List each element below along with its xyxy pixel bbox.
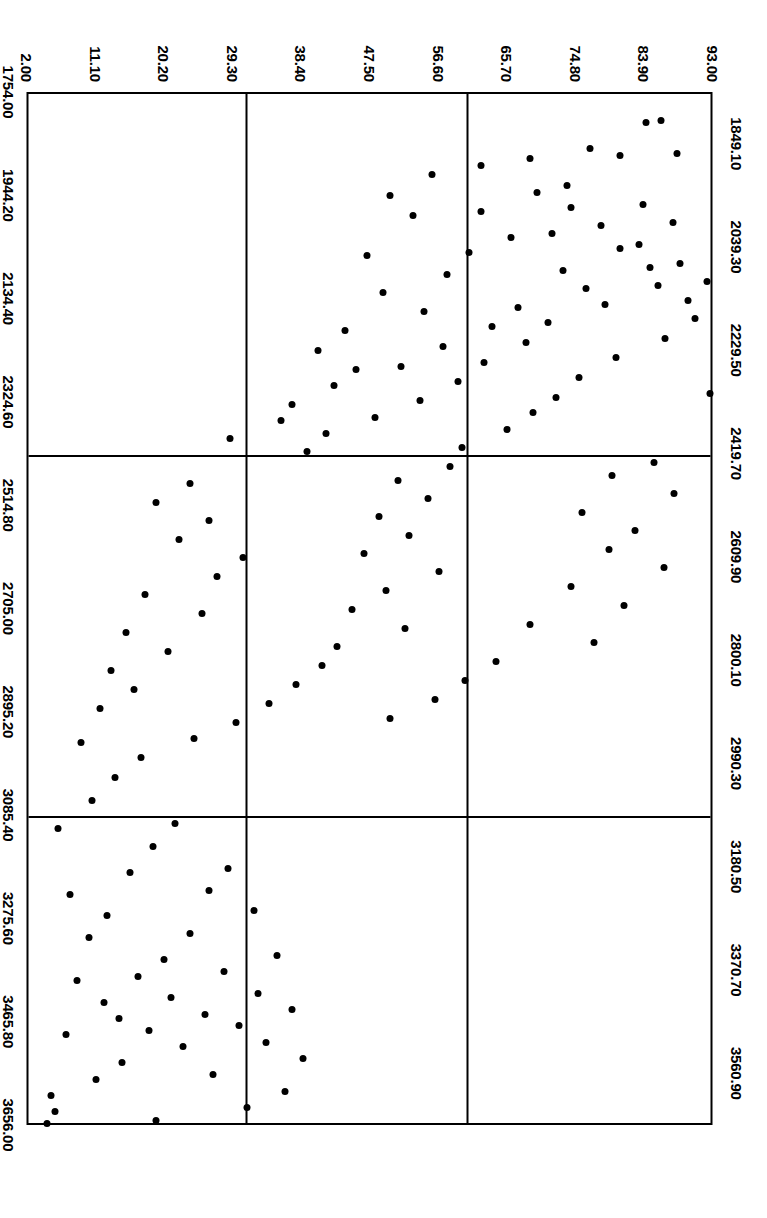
data-point	[179, 1043, 186, 1050]
data-point	[250, 907, 257, 914]
data-point	[341, 327, 348, 334]
data-point	[100, 999, 107, 1006]
data-point	[273, 952, 280, 959]
data-point	[676, 260, 683, 267]
data-point	[661, 335, 668, 342]
x-tick-upper-0: 1849.10	[727, 117, 744, 170]
data-point	[639, 201, 646, 208]
data-point	[605, 546, 612, 553]
data-point	[205, 887, 212, 894]
data-point	[277, 417, 284, 424]
data-point	[454, 378, 461, 385]
data-point	[405, 532, 412, 539]
data-point	[232, 719, 239, 726]
data-point	[658, 117, 665, 124]
data-point	[77, 739, 84, 746]
panel-divider-vertical-0	[28, 455, 710, 457]
y-tick-7: 29.30	[223, 45, 240, 82]
data-point	[205, 517, 212, 524]
y-tick-5: 47.50	[361, 45, 378, 82]
x-tick-lower-8: 3275.60	[0, 892, 16, 945]
x-tick-lower-2: 2134.40	[0, 272, 16, 325]
x-tick-upper-1: 2039.30	[727, 221, 744, 274]
data-point	[262, 1039, 269, 1046]
data-point	[507, 234, 514, 241]
data-point	[299, 1055, 306, 1062]
data-point	[526, 621, 533, 628]
y-tick-2: 74.80	[566, 45, 583, 82]
y-tick-9: 11.10	[86, 46, 103, 82]
x-tick-upper-4: 2609.90	[727, 530, 744, 583]
data-point	[190, 735, 197, 742]
data-point	[443, 271, 450, 278]
data-point	[149, 843, 156, 850]
data-point	[446, 463, 453, 470]
data-point	[92, 1076, 99, 1083]
data-point	[43, 1120, 50, 1127]
data-point	[119, 1059, 126, 1066]
data-point	[47, 1092, 54, 1099]
data-point	[435, 568, 442, 575]
data-point	[642, 119, 649, 126]
data-point	[145, 1027, 152, 1034]
data-point	[73, 977, 80, 984]
data-point	[477, 208, 484, 215]
data-point	[137, 754, 144, 761]
x-tick-lower-6: 2895.20	[0, 685, 16, 738]
data-point	[420, 308, 427, 315]
data-point	[235, 1022, 242, 1029]
data-point	[66, 891, 73, 898]
data-point	[54, 825, 61, 832]
x-tick-lower-4: 2514.80	[0, 479, 16, 532]
scatter-plot-figure: 1849.102039.302229.502419.702609.902800.…	[0, 0, 767, 1218]
data-point	[616, 245, 623, 252]
x-tick-lower-1: 1944.20	[0, 169, 16, 222]
data-point	[401, 625, 408, 632]
data-point	[609, 472, 616, 479]
data-point	[397, 363, 404, 370]
data-point	[352, 366, 359, 373]
data-point	[616, 152, 623, 159]
data-point	[186, 480, 193, 487]
data-point	[431, 696, 438, 703]
data-point	[488, 323, 495, 330]
data-point	[707, 390, 714, 397]
data-point	[439, 343, 446, 350]
data-point	[224, 865, 231, 872]
data-point	[567, 583, 574, 590]
panel-divider-horizontal-1	[245, 94, 247, 1123]
data-point	[126, 869, 133, 876]
data-point	[315, 347, 322, 354]
data-point	[103, 912, 110, 919]
data-point	[168, 994, 175, 1001]
data-point	[288, 401, 295, 408]
data-point	[503, 426, 510, 433]
y-tick-4: 56.60	[429, 45, 446, 82]
x-tick-lower-0: 1754.00	[0, 66, 16, 119]
y-tick-8: 20.20	[155, 45, 172, 82]
data-point	[152, 499, 159, 506]
data-point	[292, 681, 299, 688]
y-tick-6: 38.40	[292, 45, 309, 82]
data-point	[134, 973, 141, 980]
y-tick-10: 2.00	[18, 54, 35, 82]
data-point	[416, 397, 423, 404]
data-point	[526, 155, 533, 162]
data-point	[635, 241, 642, 248]
x-tick-upper-9: 3560.90	[727, 1047, 744, 1100]
data-point	[122, 629, 129, 636]
data-point	[409, 212, 416, 219]
data-point	[303, 448, 310, 455]
data-point	[590, 639, 597, 646]
data-point	[371, 414, 378, 421]
data-point	[288, 1006, 295, 1013]
data-point	[552, 394, 559, 401]
data-point	[458, 444, 465, 451]
data-point	[646, 264, 653, 271]
data-point	[582, 285, 589, 292]
data-point	[670, 490, 677, 497]
data-point	[578, 509, 585, 516]
data-point	[175, 536, 182, 543]
data-point	[318, 662, 325, 669]
data-point	[160, 956, 167, 963]
